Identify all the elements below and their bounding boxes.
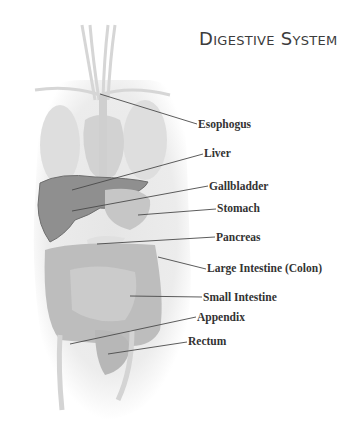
label-gallbladder: Gallbladder bbox=[209, 180, 268, 192]
label-esophogus: Esophogus bbox=[198, 118, 251, 130]
label-appendix: Appendix bbox=[197, 311, 245, 323]
diagram-title: Digestive System bbox=[199, 28, 338, 49]
anatomy-illustration bbox=[0, 0, 350, 438]
label-large-intestine: Large Intestine (Colon) bbox=[207, 262, 322, 274]
label-pancreas: Pancreas bbox=[216, 231, 261, 243]
label-liver: Liver bbox=[204, 147, 231, 159]
label-rectum: Rectum bbox=[188, 335, 226, 347]
label-small-intestine: Small Intestine bbox=[203, 291, 277, 303]
label-stomach: Stomach bbox=[217, 202, 260, 214]
digestive-system-diagram: Digestive System Esophogus Liver Gallbla… bbox=[0, 0, 350, 438]
